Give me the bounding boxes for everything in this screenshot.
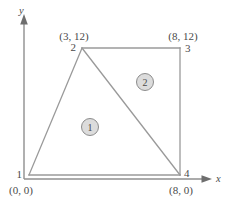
node-label-2: 2 (71, 41, 77, 53)
mesh-figure: y x 1 (0, 0) 2 (3, 12) 3 (8, 12) 4 (8, 0… (0, 0, 232, 201)
x-axis-label: x (215, 173, 221, 184)
node-coord-3: (8, 12) (168, 30, 198, 43)
element-label-2: 2 (143, 77, 148, 88)
mesh-diagram-canvas: y x 1 (0, 0) 2 (3, 12) 3 (8, 12) 4 (8, 0… (0, 0, 232, 201)
element-label-1: 1 (88, 122, 93, 133)
node-coord-1: (0, 0) (9, 184, 33, 197)
node-label-1: 1 (17, 168, 23, 180)
node-label-3: 3 (185, 42, 191, 54)
y-axis-label: y (18, 5, 24, 16)
mesh-edge-2-4-diagonal (82, 48, 180, 175)
mesh-edge-1-2 (29, 48, 82, 175)
node-coord-2: (3, 12) (59, 30, 89, 43)
node-label-4: 4 (184, 167, 190, 179)
x-axis-arrowhead (202, 175, 213, 183)
node-coord-4: (8, 0) (169, 184, 193, 197)
